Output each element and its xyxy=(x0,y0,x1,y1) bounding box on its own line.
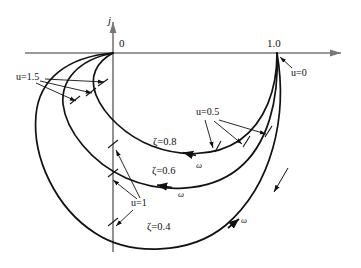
omega-arrow-zeta-0-4 xyxy=(228,219,239,228)
leader-u05-a xyxy=(205,120,213,148)
label-u-zero: u=0 xyxy=(291,68,307,78)
label-omega-zeta-0-4: ω xyxy=(241,216,247,225)
unit-tick-label: 1.0 xyxy=(267,38,281,49)
tick-u15-zeta-0-8 xyxy=(98,79,108,86)
label-u-one: u=1 xyxy=(131,198,147,208)
leader-u05-b xyxy=(214,121,242,144)
leader-u15-c xyxy=(45,79,104,82)
imaginary-axis-label: j xyxy=(108,15,111,26)
axis-group xyxy=(25,22,341,252)
label-zeta-0-6: ζ=0.6 xyxy=(152,166,175,177)
sweep-direction-arrow xyxy=(274,168,288,192)
polar-plot-figure: j 0 1.0 u=0 u=1.5 u=0.5 u=1 ζ=0.8 ζ=0.6 … xyxy=(0,0,361,268)
leader-u1-c xyxy=(116,210,133,226)
label-omega-zeta-0-8: ω xyxy=(196,161,202,170)
curve-zeta-0-8-path xyxy=(93,53,277,154)
label-zeta-0-8: ζ=0.8 xyxy=(153,137,176,148)
label-u-half: u=0.5 xyxy=(196,107,219,117)
plot-canvas xyxy=(0,0,361,268)
label-omega-zeta-0-6: ω xyxy=(178,190,184,199)
parameter-tick-marks xyxy=(70,79,272,226)
origin-tick-label: 0 xyxy=(119,38,125,49)
label-zeta-0-4: ζ=0.4 xyxy=(147,222,170,233)
tick-u15-zeta-0-4 xyxy=(70,96,80,104)
leader-u05-c xyxy=(219,120,266,134)
label-u-one-five: u=1.5 xyxy=(16,72,39,82)
